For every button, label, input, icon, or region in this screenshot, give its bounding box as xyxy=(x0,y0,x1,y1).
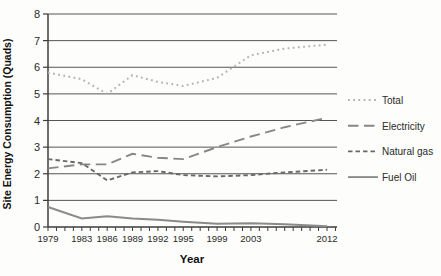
series-line-fuel-oil xyxy=(48,207,327,226)
x-axis-title: Year xyxy=(180,253,205,265)
y-tick-label-4: 4 xyxy=(34,115,40,127)
legend-label-total: Total xyxy=(382,95,403,106)
y-axis-title: Site Energy Consumption (Quads) xyxy=(1,39,13,210)
y-tick-label-6: 6 xyxy=(34,61,40,73)
y-tick-label-5: 5 xyxy=(34,88,40,100)
y-tick-label-7: 7 xyxy=(34,35,40,47)
x-tick-label-2003: 2003 xyxy=(240,233,261,244)
series-line-total xyxy=(48,45,327,94)
y-tick-label-3: 3 xyxy=(34,141,40,153)
x-tick-label-1986: 1986 xyxy=(97,233,118,244)
x-tick-label-1992: 1992 xyxy=(147,233,168,244)
series-line-natural-gas xyxy=(48,159,327,180)
series-line-electricity xyxy=(48,118,327,169)
y-tick-label-1: 1 xyxy=(34,194,40,206)
x-tick-label-1999: 1999 xyxy=(207,233,228,244)
x-tick-label-1995: 1995 xyxy=(173,233,194,244)
y-tick-label-0: 0 xyxy=(34,221,40,233)
legend-label-fuel-oil: Fuel Oil xyxy=(382,172,416,183)
y-tick-label-2: 2 xyxy=(34,168,40,180)
chart-canvas: Site Energy Consumption (Quads) Year 012… xyxy=(0,0,441,276)
x-tick-label-1983: 1983 xyxy=(71,233,92,244)
x-tick-label-1979: 1979 xyxy=(37,233,58,244)
x-tick-label-1989: 1989 xyxy=(122,233,143,244)
energy-consumption-line-chart: Site Energy Consumption (Quads) Year 012… xyxy=(0,0,441,276)
x-tick-label-2012: 2012 xyxy=(316,233,337,244)
y-tick-label-8: 8 xyxy=(34,8,40,20)
legend-label-natural-gas: Natural gas xyxy=(382,146,433,157)
legend-label-electricity: Electricity xyxy=(382,121,425,132)
